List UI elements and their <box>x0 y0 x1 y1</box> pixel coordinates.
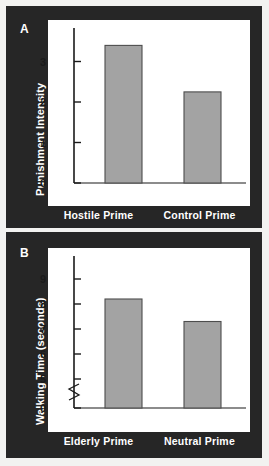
panel-a-xlabel-control-prime: Control Prime <box>149 209 250 221</box>
panel-b-ytick-label-8: 8 <box>28 298 46 310</box>
panel-a-ytick-label-3: 3 <box>28 56 46 68</box>
panel-a-ytick-label-2: 2 <box>28 96 46 108</box>
panel-a-bar-control-prime <box>184 92 221 183</box>
panel-b-bar-neutral-prime <box>184 322 221 409</box>
panel-b-ytick-label-6: 6 <box>28 348 46 360</box>
panel-a-ytick-label-0: 0 <box>28 177 46 189</box>
figure-canvas: A Punishment Intensity 0 1 2 3 Hostile P… <box>0 0 269 466</box>
panel-b-plot-area <box>48 248 250 432</box>
panel-b-bar-elderly-prime <box>105 299 142 408</box>
panel-b-ytick-label-5: 5 <box>28 373 46 385</box>
panel-b-chart <box>48 248 250 432</box>
panel-b-ytick-label-7: 7 <box>28 323 46 335</box>
panel-b-axis-break-icon <box>69 384 79 400</box>
panel-b-xlabel-neutral-prime: Neutral Prime <box>149 435 250 447</box>
panel-a-letter: A <box>20 22 29 36</box>
panel-a-bar-hostile-prime <box>105 45 142 183</box>
panel-b-letter: B <box>20 246 29 260</box>
panel-a-xlabel-hostile-prime: Hostile Prime <box>48 209 149 221</box>
panel-a-chart <box>48 20 250 206</box>
panel-b-ytick-label-9: 9 <box>28 273 46 285</box>
panel-a-x-axis-labels: Hostile Prime Control Prime <box>48 209 250 221</box>
panel-b-xlabel-elderly-prime: Elderly Prime <box>48 435 149 447</box>
panel-b-x-axis-labels: Elderly Prime Neutral Prime <box>48 435 250 447</box>
panel-a-ytick-label-1: 1 <box>28 137 46 149</box>
panel-b-ytick-label-0: 0 <box>28 402 46 414</box>
panel-a-plot-area <box>48 20 250 206</box>
